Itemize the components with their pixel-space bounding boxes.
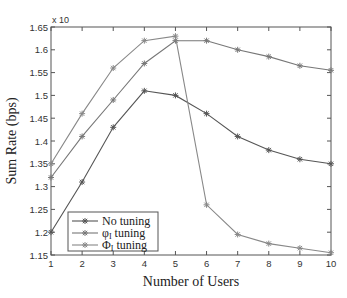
y-tick-label: 1.2 xyxy=(35,227,48,238)
data-point-marker xyxy=(297,63,303,69)
data-point-marker xyxy=(48,229,54,235)
y-tick-label: 1.4 xyxy=(35,136,48,147)
y-tick-label: 1.3 xyxy=(35,181,48,192)
data-point-marker xyxy=(79,179,85,185)
x-tick-label: 4 xyxy=(142,258,147,269)
data-point-marker xyxy=(141,38,147,44)
y-tick-label: 1.35 xyxy=(30,158,49,169)
data-point-marker xyxy=(110,97,116,103)
x-tick-label: 8 xyxy=(266,258,271,269)
data-point-marker xyxy=(204,111,210,117)
data-point-marker xyxy=(141,60,147,66)
data-point-marker xyxy=(235,47,241,53)
legend-marker-icon xyxy=(82,230,88,236)
sum-rate-chart: 1.151.21.251.31.351.41.451.51.551.61.65 … xyxy=(0,0,347,298)
data-point-marker xyxy=(110,65,116,71)
y-tick-label: 1.65 xyxy=(30,22,49,33)
data-point-marker xyxy=(204,38,210,44)
data-point-marker xyxy=(172,33,178,39)
data-point-marker xyxy=(235,133,241,139)
data-point-marker xyxy=(266,241,272,247)
x-tick-label: 10 xyxy=(326,258,337,269)
data-point-marker xyxy=(204,202,210,208)
y-tick-label: 1.5 xyxy=(35,90,48,101)
x-tick-label: 2 xyxy=(79,258,84,269)
legend-marker-icon xyxy=(82,218,88,224)
y-multiplier-label: x 10 xyxy=(52,15,69,25)
y-tick-label: 1.45 xyxy=(30,113,49,124)
series-1 xyxy=(48,38,334,181)
data-point-marker xyxy=(328,67,334,73)
x-tick-label: 9 xyxy=(297,258,302,269)
y-tick-label: 1.6 xyxy=(35,44,48,55)
x-tick-label: 3 xyxy=(111,258,116,269)
data-point-marker xyxy=(141,88,147,94)
data-point-marker xyxy=(266,54,272,60)
y-tick-label: 1.55 xyxy=(30,67,49,78)
data-point-marker xyxy=(48,174,54,180)
legend-label: ΦI tuning xyxy=(102,238,147,253)
data-point-marker xyxy=(297,156,303,162)
x-axis-title: Number of Users xyxy=(143,274,239,289)
legend-marker-icon xyxy=(82,242,88,248)
x-tick-label: 6 xyxy=(204,258,209,269)
series-line xyxy=(51,91,331,232)
data-point-marker xyxy=(297,245,303,251)
data-point-marker xyxy=(110,124,116,130)
y-tick-label: 1.15 xyxy=(30,250,49,261)
data-point-marker xyxy=(79,133,85,139)
y-tick-label: 1.25 xyxy=(30,204,49,215)
data-point-marker xyxy=(328,161,334,167)
data-point-marker xyxy=(328,250,334,256)
data-point-marker xyxy=(266,147,272,153)
x-tick-label: 7 xyxy=(235,258,240,269)
data-point-marker xyxy=(172,92,178,98)
data-point-marker xyxy=(79,111,85,117)
data-point-marker xyxy=(235,231,241,237)
y-axis-title: Sum Rate (bps) xyxy=(4,97,20,184)
data-point-marker xyxy=(48,161,54,167)
series-line xyxy=(51,41,331,178)
x-tick-label: 1 xyxy=(48,258,53,269)
legend: No tuningφI tuningΦI tuning xyxy=(68,212,158,253)
x-tick-label: 5 xyxy=(173,258,178,269)
